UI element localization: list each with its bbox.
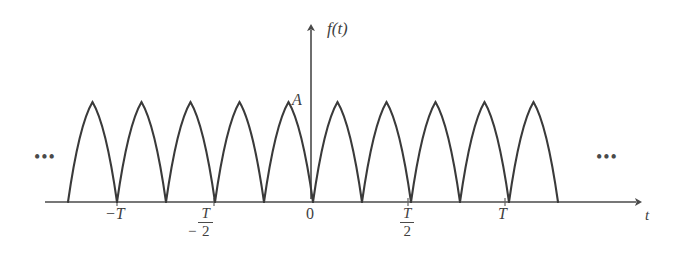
rectified-sine-curve	[68, 102, 558, 202]
y-axis-label: f(t)	[327, 20, 348, 37]
fraction-denominator: 2	[199, 223, 213, 239]
tick-label-pos-t-over-2: T 2	[400, 206, 414, 239]
tick-label-neg-t-over-2: − T 2	[188, 206, 213, 239]
fraction-numerator: T	[400, 206, 414, 222]
fraction-denominator: 2	[400, 223, 414, 239]
fraction-numerator: T	[198, 206, 212, 222]
plot-canvas	[0, 0, 674, 259]
ellipsis-right: •••	[596, 148, 618, 166]
minus-sign: −	[188, 224, 196, 239]
x-axis-label: t	[645, 208, 649, 223]
fraction-stack: T 2	[198, 206, 212, 239]
ellipsis-left: •••	[34, 148, 56, 166]
rectified-sine-figure: f(t) t A 0 −T T − T 2 T 2 ••• •••	[0, 0, 674, 259]
tick-label-pos-t: T	[498, 206, 507, 222]
fraction-stack: T 2	[400, 206, 414, 239]
tick-label-zero: 0	[306, 206, 314, 222]
amplitude-label: A	[292, 92, 302, 108]
tick-label-neg-t: −T	[105, 206, 125, 222]
